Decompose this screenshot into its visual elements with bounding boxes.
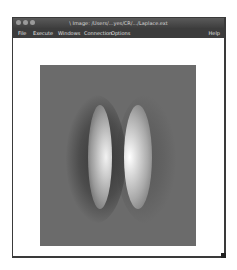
- window-title: \ Image: /Users/...yes/CR/.../Laplace.ex…: [13, 18, 224, 28]
- application-window: \ Image: /Users/...yes/CR/.../Laplace.ex…: [12, 17, 226, 258]
- left-bright-blob: [88, 105, 112, 209]
- laplace-image[interactable]: [40, 65, 196, 246]
- menu-help[interactable]: Help: [209, 28, 220, 38]
- menu-bar: File Execute Windows Connection Options …: [13, 28, 224, 38]
- menu-options[interactable]: Options: [111, 28, 130, 38]
- menu-windows[interactable]: Windows: [58, 28, 80, 38]
- title-bar[interactable]: \ Image: /Users/...yes/CR/.../Laplace.ex…: [13, 18, 224, 28]
- resize-grip-icon[interactable]: [221, 253, 226, 258]
- canvas-area: [13, 38, 224, 256]
- menu-execute[interactable]: Execute: [33, 28, 53, 38]
- right-bright-blob: [124, 105, 152, 209]
- menu-file[interactable]: File: [18, 28, 26, 38]
- menu-connection[interactable]: Connection: [84, 28, 112, 38]
